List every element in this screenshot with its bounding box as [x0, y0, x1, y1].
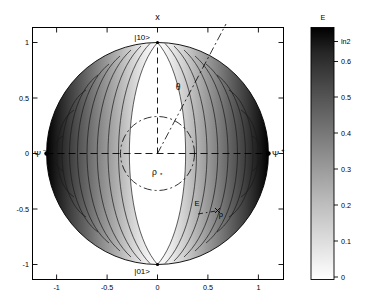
colorbar-tick-label: 0: [341, 273, 345, 282]
y-tick-label: 0.5: [19, 94, 29, 103]
axis-title-top: x: [155, 12, 160, 22]
colorbar-tick-label: 0.6: [341, 57, 351, 66]
x-tick-label: -1: [53, 283, 59, 292]
y-tick-label: -0.5: [17, 205, 29, 214]
x-tick-label: 0: [156, 283, 160, 292]
x-tick-label: 1: [256, 283, 260, 292]
y-tick-label: -1: [23, 260, 29, 269]
rho-star-symbol: ρ: [152, 167, 157, 177]
contour-figure: -1 -0.5 0 0.5 1 1 0.5 0 -0.5 -1 x |10> |…: [0, 0, 366, 307]
colorbar-ticks: [334, 42, 338, 278]
colorbar-title: E: [321, 13, 326, 22]
colorbar-tick-label: ln2: [341, 37, 351, 46]
ket-label-bottom: |01>: [134, 267, 150, 276]
colorbar-tick-label: 0.1: [341, 237, 351, 246]
psi-plus-superscript: +: [281, 147, 285, 153]
x-tick-label: 0.5: [203, 283, 213, 292]
figure-container: -1 -0.5 0 0.5 1 1 0.5 0 -0.5 -1 x |10> |…: [0, 0, 366, 307]
colorbar-tick-label: 0.5: [341, 93, 351, 102]
ket-label-top: |10>: [134, 33, 150, 42]
y-tick-label: 1: [25, 38, 29, 47]
colorbar: E ln2 0.6 0.5 0.4 0.3 0.2 0.1 0: [311, 13, 351, 282]
y-tick-label: 0: [25, 149, 29, 158]
colorbar-tick-label: 0.2: [341, 201, 351, 210]
psi-minus-superscript: −: [43, 147, 47, 153]
theta-label: θ: [176, 82, 181, 92]
colorbar-gradient: [311, 28, 334, 280]
rho-annotation-label: ρ: [219, 210, 223, 219]
x-tick-label: -0.5: [101, 283, 113, 292]
psi-minus-symbol: Ψ: [34, 149, 41, 159]
E-annotation-label: E: [194, 199, 199, 208]
psi-plus-symbol: Ψ: [272, 149, 279, 159]
colorbar-tick-label: 0.3: [341, 165, 351, 174]
colorbar-tick-label: 0.4: [341, 129, 351, 138]
